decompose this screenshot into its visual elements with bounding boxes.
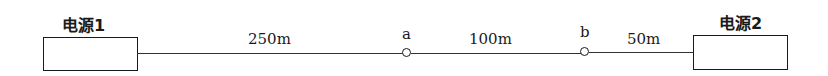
wire-segment-b-source2: [589, 52, 694, 53]
source-2-label: 电源2: [719, 16, 762, 32]
source-1-label: 电源1: [62, 18, 105, 34]
segment-length-2: 100m: [469, 32, 512, 47]
segment-length-1: 250m: [248, 32, 291, 47]
source-1-box: [43, 37, 138, 71]
wire-segment-source1-a: [137, 53, 403, 54]
node-b-circle-icon: [580, 47, 589, 56]
node-a-circle-icon: [402, 48, 411, 57]
source-2-box: [693, 35, 788, 70]
node-b-label: b: [580, 25, 590, 40]
node-a-label: a: [402, 27, 411, 42]
segment-length-3: 50m: [627, 32, 660, 47]
wire-segment-a-b: [411, 53, 581, 54]
